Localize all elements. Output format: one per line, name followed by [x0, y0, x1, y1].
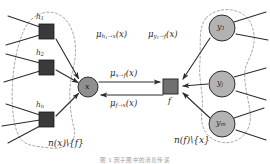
node-label-yj: yj — [217, 79, 223, 88]
node-label-h1: h1 — [36, 13, 44, 21]
left-factor-nodes — [39, 24, 54, 127]
message-label-y1-to-f: μy1→f(x) — [148, 30, 178, 41]
node-label-h2: h2 — [36, 49, 44, 57]
figure-caption: 图 1 因子图中的消息传递 — [0, 156, 270, 164]
factor-node-f — [163, 79, 178, 94]
graph-canvas — [0, 0, 270, 164]
factor-graph-figure: h1 h2 hn x f y1 yj ym μh1→x(x) μy1→f(x) … — [0, 0, 270, 164]
x-f-message-arrows — [99, 82, 163, 95]
left-external-edges — [2, 16, 40, 143]
message-label-x-to-f: μx→f(x) — [110, 69, 137, 79]
node-label-x: x — [85, 83, 90, 91]
message-label-h1-to-x: μh1→x(x) — [96, 30, 127, 41]
node-label-y1: y1 — [217, 23, 225, 32]
message-label-f-to-x: μf→x(x) — [110, 99, 137, 109]
set-label-right: n(f)\{x} — [174, 136, 210, 145]
right-external-edges — [234, 12, 268, 140]
node-label-ym: ym — [216, 119, 226, 128]
node-label-hn: hn — [36, 101, 44, 109]
node-label-f: f — [168, 97, 171, 105]
set-label-left: n(x)\{f} — [48, 139, 84, 148]
y-to-f-edges — [183, 38, 210, 118]
